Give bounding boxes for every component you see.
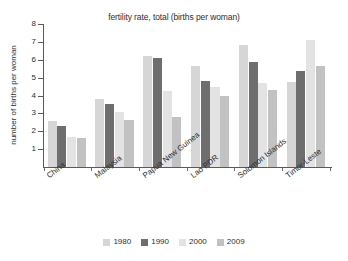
legend-swatch-icon — [103, 239, 110, 246]
y-axis-label: number of births per woman — [9, 45, 18, 145]
y-axis-tick-label: 8 — [22, 20, 36, 28]
chart-title: fertility rate, total (births per woman) — [0, 12, 348, 22]
y-axis-label-container: number of births per woman — [6, 22, 20, 167]
y-axis-tick-label: 3 — [22, 109, 36, 117]
legend-swatch-icon — [217, 239, 224, 246]
bar — [153, 58, 162, 167]
bar — [296, 71, 305, 167]
x-axis-group-tick — [44, 168, 45, 171]
x-axis-group-tick — [187, 168, 188, 171]
bar — [220, 96, 229, 168]
bar — [239, 45, 248, 167]
x-axis-group-tick — [234, 168, 235, 171]
legend-item-label: 2000 — [189, 238, 207, 246]
bar — [77, 138, 86, 167]
legend-item-label: 1980 — [113, 238, 131, 246]
legend-swatch-icon — [141, 239, 148, 246]
bar — [143, 56, 152, 167]
bar-group — [191, 24, 230, 167]
bar — [249, 62, 258, 167]
legend-item-label: 1990 — [151, 238, 169, 246]
bar — [48, 121, 57, 167]
legend-item[interactable]: 2000 — [179, 238, 207, 246]
y-axis-tick-label: 5 — [22, 74, 36, 82]
bar — [201, 81, 210, 167]
bar-group — [287, 24, 326, 167]
bar — [124, 120, 133, 167]
bar — [67, 137, 76, 167]
legend-item[interactable]: 1990 — [141, 238, 169, 246]
y-axis-tick-label: 6 — [22, 56, 36, 64]
x-axis-group-tick — [330, 168, 331, 171]
bar — [191, 66, 200, 167]
legend-swatch-icon — [179, 239, 186, 246]
x-axis-group-tick — [282, 168, 283, 171]
y-axis-tick-label: 1 — [22, 145, 36, 153]
x-axis-group-tick — [139, 168, 140, 171]
chart-legend: 1980199020002009 — [0, 238, 348, 246]
y-axis-tick-label: 7 — [22, 38, 36, 46]
legend-item[interactable]: 1980 — [103, 238, 131, 246]
bar — [95, 99, 104, 167]
legend-item[interactable]: 2009 — [217, 238, 245, 246]
y-axis-tick-label: 2 — [22, 127, 36, 135]
bar — [287, 82, 296, 167]
bar-group — [95, 24, 134, 167]
y-axis-tick-label: 4 — [22, 92, 36, 100]
bar-group — [48, 24, 87, 167]
legend-item-label: 2009 — [227, 238, 245, 246]
fertility-rate-bar-chart: fertility rate, total (births per woman)… — [0, 0, 348, 261]
x-axis-group-tick — [91, 168, 92, 171]
